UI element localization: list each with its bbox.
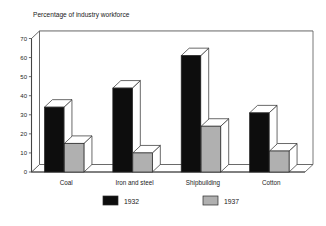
legend-swatch — [203, 196, 218, 205]
bar-front-face — [181, 56, 201, 172]
legend-swatch — [103, 196, 118, 205]
chart-container: Percentage of industry workforce 0102030… — [0, 0, 326, 226]
bar-1937-shipbuilding[interactable] — [201, 119, 229, 172]
bar-1937-coal[interactable] — [64, 136, 92, 172]
y-axis-tick-label: 70 — [20, 36, 27, 42]
bar-front-face — [270, 151, 290, 172]
x-axis-label: Iron and steel — [115, 179, 153, 186]
bar-front-face — [250, 113, 270, 172]
plot-left-wall — [32, 31, 40, 172]
y-axis-tick-label: 10 — [20, 150, 27, 156]
y-axis-tick-label: 50 — [20, 74, 27, 80]
legend-label: 1932 — [124, 198, 139, 205]
x-axis-label: Cotton — [262, 179, 281, 186]
bar-chart: Percentage of industry workforce 0102030… — [0, 0, 326, 226]
bar-1937-cotton[interactable] — [270, 144, 298, 172]
bar-side-face — [221, 119, 229, 172]
y-axis-tick-label: 40 — [20, 93, 27, 99]
chart-title: Percentage of industry workforce — [33, 11, 130, 19]
bar-front-face — [133, 153, 153, 172]
x-axis-label: Shipbuilding — [186, 179, 221, 187]
bar-front-face — [44, 107, 64, 172]
bar-front-face — [113, 88, 133, 172]
y-axis-tick-label: 20 — [20, 131, 27, 137]
bar-1937-iron-and-steel[interactable] — [133, 145, 161, 172]
y-axis-tick-label: 60 — [20, 55, 27, 61]
legend-label: 1937 — [224, 198, 239, 205]
bar-front-face — [201, 126, 221, 172]
x-axis-label: Coal — [60, 179, 73, 186]
y-axis-tick-label: 30 — [20, 112, 27, 118]
bar-front-face — [64, 143, 84, 172]
